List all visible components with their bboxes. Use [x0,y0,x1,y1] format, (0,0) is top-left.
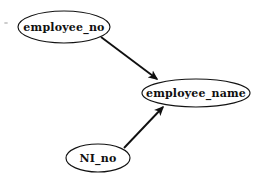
node-employee-name-label: employee_name [146,87,246,101]
edge-line [124,107,163,148]
edge-employee-no-to-employee-name [101,37,157,79]
node-ni-no-label: NI_no [79,152,116,166]
node-employee-no[interactable]: employee_no [18,11,110,43]
edge-line [101,37,157,79]
node-employee-no-label: employee_no [23,21,104,35]
dependency-diagram: employee_no employee_name NI_no [0,0,259,183]
node-employee-name[interactable]: employee_name [142,79,250,107]
node-ni-no[interactable]: NI_no [66,144,130,172]
edge-ni-no-to-employee-name [124,107,163,148]
diagram-canvas: employee_no employee_name NI_no [0,0,259,183]
scan-speck [4,22,8,24]
